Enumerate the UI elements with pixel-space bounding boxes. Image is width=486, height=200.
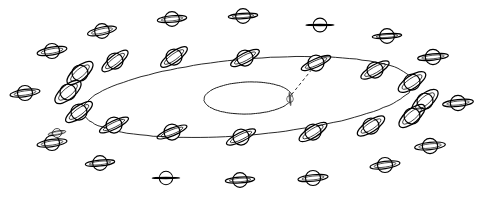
field-saturn-glyph [298, 170, 329, 186]
field-saturn-glyph [372, 29, 402, 44]
outer-field-saturns-layer [10, 9, 474, 188]
field-saturn-glyph [442, 95, 473, 111]
planet-ring-group [372, 33, 402, 40]
planet-ring-group [85, 159, 115, 168]
orbit-saturn-glyph [225, 126, 258, 148]
field-saturn-glyph [37, 135, 68, 151]
field-saturn-glyph [10, 85, 41, 101]
planet-ring-group [306, 25, 334, 26]
field-saturn-glyph [153, 171, 180, 185]
field-saturn-glyph [414, 138, 445, 154]
planet-ring-group [10, 87, 41, 98]
planet-ring-outer [306, 25, 334, 26]
inner-orbit-ellipse [204, 82, 292, 114]
orbit-saturn-glyph [63, 58, 96, 89]
orbit-saturn-glyph [395, 101, 428, 132]
field-saturn-glyph [228, 9, 258, 24]
planet-body [107, 53, 123, 69]
orbit-saturn-glyph [297, 119, 330, 145]
outer-orbit-saturns-layer [51, 43, 442, 148]
orbit-saturn-glyph [158, 43, 190, 70]
field-saturn-glyph [225, 173, 255, 188]
saturn-orbit-diagram [0, 0, 486, 200]
orbit-saturn-glyph [359, 58, 392, 83]
field-saturn-glyph [87, 24, 117, 39]
field-saturn-glyph [85, 156, 115, 171]
field-saturn-glyph [370, 157, 401, 173]
planet-ring-group [153, 178, 180, 179]
planet-ring-outer [153, 178, 180, 179]
planet-body [44, 43, 59, 58]
orbit-saturn-glyph [355, 112, 388, 139]
planet-ring-group [157, 14, 187, 24]
planet-ring-group [225, 176, 255, 184]
planet-body [425, 49, 440, 64]
field-saturn-glyph [306, 18, 334, 32]
planet-ring-group [298, 173, 329, 183]
orbit-saturn-glyph [156, 122, 189, 141]
orbit-saturn-glyph [99, 47, 131, 75]
diagram-canvas [0, 0, 486, 200]
orbit-saturn-glyph [395, 68, 429, 97]
planet-body [377, 157, 392, 172]
field-saturn-glyph [37, 43, 68, 59]
field-saturn-glyph [157, 12, 187, 27]
field-saturn-glyph [417, 49, 448, 65]
orbit-saturn-glyph [300, 53, 333, 74]
planet-body [450, 95, 465, 110]
planet-ring-group [228, 12, 258, 19]
planet-body [422, 138, 437, 153]
